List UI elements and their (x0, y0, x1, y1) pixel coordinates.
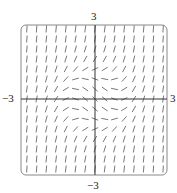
slope-segment (104, 26, 105, 33)
slope-segment (122, 116, 127, 121)
slope-segment (75, 156, 76, 163)
slope-segment (55, 136, 57, 143)
slope-segment (55, 146, 56, 153)
slope-segment (75, 36, 76, 43)
slope-segment (27, 36, 28, 43)
slope-segment (111, 78, 118, 80)
slope-segment (65, 146, 67, 153)
slope-segment (84, 146, 86, 153)
slope-segment (153, 86, 154, 93)
slope-segment (82, 127, 88, 131)
slope-segment (163, 56, 164, 63)
slope-segment (72, 108, 79, 109)
slope-segment (163, 106, 164, 113)
slope-segment (133, 136, 135, 143)
slope-segment (153, 76, 154, 83)
slope-segment (134, 166, 135, 173)
slope-segment (102, 127, 108, 131)
slope-segment (36, 76, 37, 83)
slope-segment (84, 56, 87, 62)
slope-segment (101, 78, 108, 79)
slope-segment (133, 116, 136, 122)
slope-segment (114, 146, 116, 153)
slope-segment (163, 36, 164, 43)
slope-segment (46, 36, 47, 43)
slope-segment (27, 46, 28, 53)
slope-segment (36, 46, 37, 53)
slope-segment (133, 66, 135, 73)
slope-segment (55, 116, 58, 122)
slope-segment (153, 36, 154, 43)
x-axis-min-label: −3 (2, 93, 14, 104)
slope-segment (63, 76, 68, 81)
x-axis-max-label: 3 (170, 93, 176, 104)
slope-segment (153, 26, 154, 33)
slope-segment (163, 46, 164, 53)
slope-segment (65, 36, 66, 43)
slope-segment (124, 36, 125, 43)
slope-segment (123, 126, 126, 132)
slope-segment (114, 166, 115, 173)
slope-segment (103, 56, 106, 62)
slope-segment (111, 108, 118, 109)
slope-segment (143, 36, 144, 43)
slope-segment (114, 36, 115, 43)
slope-segment (153, 146, 154, 153)
slope-segment (26, 106, 27, 113)
slope-segment (143, 46, 144, 53)
slope-segment (104, 46, 106, 53)
slope-segment (27, 136, 28, 143)
slope-segment (65, 156, 66, 163)
slope-segment (121, 87, 127, 91)
slope-segment (45, 116, 47, 123)
slope-segment (63, 87, 69, 91)
slope-segment (163, 146, 164, 153)
slope-segment (74, 136, 77, 142)
slope-segment (36, 116, 37, 123)
slope-segment (75, 26, 76, 33)
slope-segment (46, 126, 48, 133)
slope-segment (133, 126, 135, 133)
slope-segment (45, 106, 47, 113)
slope-segment (123, 66, 126, 72)
slope-segment (64, 66, 67, 72)
slope-field-plot (0, 0, 177, 193)
slope-segment (82, 87, 88, 91)
slope-segment (56, 26, 57, 33)
slope-segment (72, 118, 79, 120)
slope-segment (114, 26, 115, 33)
slope-segment (103, 136, 106, 142)
slope-segment (26, 116, 27, 123)
slope-segment (143, 86, 145, 93)
slope-segment (163, 116, 164, 123)
slope-segment (55, 46, 56, 53)
slope-segment (85, 166, 86, 173)
slope-segment (143, 106, 145, 113)
slope-segment (114, 46, 116, 53)
slope-segment (163, 156, 164, 163)
slope-segment (85, 156, 86, 163)
slope-segment (45, 76, 47, 83)
slope-segment (46, 66, 48, 73)
slope-segment (84, 136, 87, 142)
slope-segment (143, 136, 144, 143)
slope-segment (133, 76, 136, 82)
slope-segment (65, 136, 67, 143)
slope-segment (36, 26, 37, 33)
slope-segment (84, 46, 86, 53)
slope-segment (54, 106, 57, 112)
slope-segment (82, 118, 89, 119)
slope-segment (72, 88, 79, 89)
slope-segment (102, 107, 108, 111)
slope-segment (72, 78, 79, 80)
slope-segment (46, 146, 47, 153)
slope-segment (133, 156, 134, 163)
slope-segment (82, 67, 88, 71)
slope-segment (143, 116, 145, 123)
slope-segment (153, 66, 154, 73)
slope-segment (63, 116, 68, 121)
slope-segment (36, 166, 37, 173)
slope-segment (65, 166, 66, 173)
slope-segment (102, 67, 108, 71)
slope-segment (26, 66, 27, 73)
